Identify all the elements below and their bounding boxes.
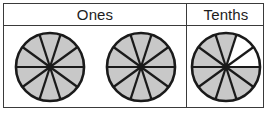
table-header-row: Ones Tenths [4,4,263,26]
column-header-tenths: Tenths [186,4,265,25]
tenths-circle-strip [187,26,265,108]
column-header-tenths-label: Tenths [204,6,249,23]
column-header-ones-label: Ones [77,6,113,23]
fraction-circle-tenths-1 [189,30,263,104]
ones-circle-strip [4,26,186,108]
table-body-row [4,26,263,108]
cell-ones [4,26,186,108]
fraction-circle-ones-1 [13,30,87,104]
fraction-circle-ones-2 [104,30,178,104]
cell-tenths [186,26,265,108]
column-header-ones: Ones [4,4,186,25]
place-value-table: Ones Tenths [3,3,264,108]
